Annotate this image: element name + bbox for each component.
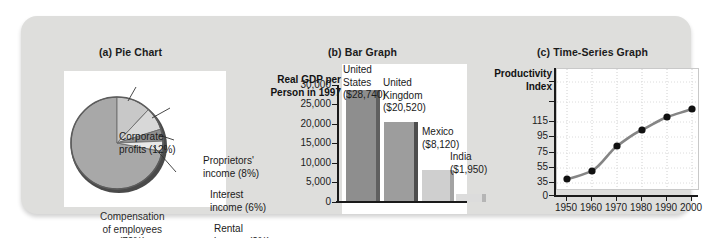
data-point-1990[interactable] bbox=[663, 113, 670, 120]
bar-label-united-kingdom-line1: United bbox=[383, 77, 426, 90]
bar-label-united-states: United States ($28,740) bbox=[343, 64, 386, 102]
time-series-svg bbox=[557, 69, 698, 189]
figure-card: (a) Pie Chart (b) Bar Graph (c) Time-Ser… bbox=[21, 16, 691, 214]
bar-graph-ytick-25000: 25,000 bbox=[273, 98, 331, 109]
bar-label-mexico-line1: Mexico bbox=[422, 126, 459, 139]
pie-label-rental-income-line1: Rental bbox=[214, 223, 270, 236]
bar-united-kingdom-face bbox=[384, 122, 414, 202]
time-series-ytick-115: 115 bbox=[512, 115, 548, 126]
time-series-y-axis-title: Productivity Index bbox=[476, 68, 552, 93]
pie-label-corporate-profits: Corporate profits (12%) bbox=[119, 131, 176, 156]
time-series-ytick-95: 95 bbox=[512, 130, 548, 141]
time-series-xtickmark-1960 bbox=[591, 196, 592, 201]
data-point-1960[interactable] bbox=[588, 167, 595, 174]
time-series-y-axis-title-line1: Productivity bbox=[476, 68, 552, 81]
pie-label-rental-income-line2: income (2%) bbox=[214, 236, 270, 239]
pie-label-compensation-of-employees: Compensation of employees (72%) bbox=[100, 211, 164, 238]
bar-united-states-side bbox=[376, 90, 380, 202]
bar-mexico-face bbox=[422, 170, 450, 202]
bar-united-kingdom-side bbox=[414, 122, 418, 202]
time-series-xtickmark-1980 bbox=[641, 196, 642, 201]
data-point-2000[interactable] bbox=[688, 105, 695, 112]
bar-label-united-kingdom-line3: ($20,520) bbox=[383, 102, 426, 115]
bar-united-kingdom bbox=[384, 122, 414, 202]
time-series-xtickmark-1950 bbox=[566, 196, 567, 201]
pie-label-corporate-profits-line2: profits (12%) bbox=[119, 144, 176, 157]
bar-graph-ytick-15000: 15,000 bbox=[273, 137, 331, 148]
time-series-ytickmark-upper2 bbox=[549, 81, 555, 82]
pie-label-rental-income: Rental income (2%) bbox=[214, 223, 270, 238]
time-series-ytickmark-55 bbox=[549, 167, 555, 168]
time-series-ytick-0: 0 bbox=[512, 190, 548, 201]
time-series-ytickmark-0 bbox=[549, 195, 555, 196]
bar-label-mexico: Mexico ($8,120) bbox=[422, 126, 459, 151]
bar-united-states bbox=[346, 90, 376, 202]
pie-label-compensation-line1: Compensation bbox=[100, 211, 164, 224]
pie-label-compensation-line3: (72%) bbox=[100, 236, 164, 238]
bar-graph-ytick-5000: 5,000 bbox=[273, 176, 331, 187]
leader-line-proprietors-income bbox=[152, 108, 170, 118]
data-point-1980[interactable] bbox=[638, 126, 645, 133]
bar-graph-ytick-0: 0 bbox=[273, 196, 331, 207]
time-series-ytickmark-95 bbox=[549, 136, 555, 137]
panel-title-pie-chart: (a) Pie Chart bbox=[99, 46, 162, 58]
bar-graph-ytick-30000: 30,000 bbox=[273, 79, 331, 90]
bar-united-states-face bbox=[346, 90, 376, 202]
bar-label-united-kingdom-line2: Kingdom bbox=[383, 90, 426, 103]
time-series-graph-panel: Productivity Index bbox=[476, 64, 702, 216]
bar-label-mexico-line2: ($8,120) bbox=[422, 139, 459, 152]
time-series-ytickmark-75 bbox=[549, 152, 555, 153]
time-series-ytickmark-35 bbox=[549, 182, 555, 183]
time-series-xtickmark-2000 bbox=[691, 196, 692, 201]
bar-mexico bbox=[422, 170, 450, 202]
panel-title-bar-graph: (b) Bar Graph bbox=[328, 46, 397, 58]
data-point-1950[interactable] bbox=[563, 175, 570, 182]
bar-graph-baseline bbox=[336, 201, 467, 203]
bar-label-united-states-line3: ($28,740) bbox=[343, 89, 386, 102]
time-series-xtickmark-1970 bbox=[616, 196, 617, 201]
bar-graph-ytick-10000: 10,000 bbox=[273, 157, 331, 168]
bar-label-united-kingdom: United Kingdom ($20,520) bbox=[383, 77, 426, 115]
bar-graph-y-axis-line bbox=[337, 85, 339, 202]
time-series-y-axis-line bbox=[554, 68, 556, 196]
time-series-xtick-2000: 2000 bbox=[676, 202, 706, 213]
time-series-ytick-55: 55 bbox=[512, 161, 548, 172]
bar-label-united-states-line2: States bbox=[343, 77, 386, 90]
pie-label-corporate-profits-line1: Corporate bbox=[119, 131, 176, 144]
bar-label-united-states-line1: United bbox=[343, 64, 386, 77]
time-series-ytickmark-upper1 bbox=[549, 101, 555, 102]
bar-graph-ytick-20000: 20,000 bbox=[273, 118, 331, 129]
pie-label-compensation-line2: of employees bbox=[100, 224, 164, 237]
time-series-xtickmark-1990 bbox=[666, 196, 667, 201]
time-series-y-axis-title-line2: Index bbox=[476, 81, 552, 94]
time-series-ytick-75: 75 bbox=[512, 146, 548, 157]
time-series-ytick-35: 35 bbox=[512, 176, 548, 187]
time-series-plot-area bbox=[556, 68, 699, 190]
pie-chart-panel: Corporate profits (12%) Proprietors' inc… bbox=[64, 71, 226, 207]
data-point-1970[interactable] bbox=[613, 142, 620, 149]
panel-title-time-series-graph: (c) Time-Series Graph bbox=[537, 46, 648, 58]
time-series-x-axis-line bbox=[554, 195, 698, 197]
bar-graph-panel: Real GDP per Person in 1997 30,000 25,00… bbox=[239, 64, 467, 214]
time-series-ytickmark-115 bbox=[549, 121, 555, 122]
